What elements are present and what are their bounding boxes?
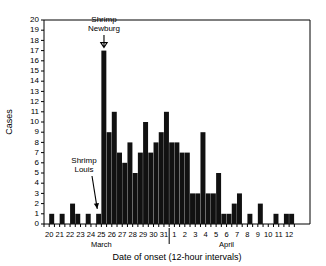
x-tick-label: 27 (118, 230, 126, 239)
bar (138, 153, 143, 224)
bar (190, 193, 195, 224)
y-axis-title: Cases (4, 109, 14, 135)
annotation-louis-line1: Shrimp (71, 156, 97, 165)
bar (143, 122, 148, 224)
bar (284, 214, 289, 224)
bar (154, 142, 159, 224)
x-tick-label: 6 (224, 230, 228, 239)
bar (237, 193, 242, 224)
bar (75, 214, 80, 224)
y-tick-label: 1 (35, 209, 40, 218)
x-tick-label: 21 (55, 230, 63, 239)
bar (86, 214, 91, 224)
x-tick-label: 3 (193, 230, 197, 239)
bar (117, 153, 122, 224)
epi-curve-chart: 01234567891011121314151617181920Cases202… (0, 0, 326, 266)
x-tick-label: 25 (97, 230, 105, 239)
x-tick-label: 7 (235, 230, 239, 239)
bar (258, 204, 263, 224)
x-tick-label: 10 (264, 230, 272, 239)
bar (96, 214, 101, 224)
bar (289, 214, 294, 224)
x-tick-label: 12 (285, 230, 293, 239)
x-tick-label: 26 (108, 230, 116, 239)
x-axis-title: Date of onset (12-hour intervals) (112, 252, 241, 262)
y-tick-label: 15 (30, 66, 39, 75)
y-tick-label: 19 (30, 25, 39, 34)
y-tick-label: 10 (30, 117, 39, 126)
x-tick-label: 22 (66, 230, 74, 239)
bar (247, 214, 252, 224)
y-tick-label: 16 (30, 56, 39, 65)
x-tick-label: 8 (245, 230, 249, 239)
y-tick-label: 14 (30, 76, 39, 85)
annotation-louis-line2: Louis (74, 165, 93, 174)
x-tick-label: 2 (183, 230, 187, 239)
y-tick-label: 6 (35, 158, 40, 167)
x-tick-label: 31 (160, 230, 168, 239)
bar (273, 214, 278, 224)
bar (211, 193, 216, 224)
y-tick-label: 11 (31, 107, 40, 116)
x-tick-label: 4 (204, 230, 208, 239)
bar (70, 204, 75, 224)
bar (148, 153, 153, 224)
x-tick-label: 1 (172, 230, 176, 239)
month-label-april: April (219, 240, 234, 249)
y-tick-label: 7 (35, 148, 40, 157)
bar (133, 173, 138, 224)
y-tick-label: 18 (30, 36, 39, 45)
bar (232, 204, 237, 224)
x-tick-label: 11 (275, 230, 283, 239)
x-tick-label: 20 (45, 230, 53, 239)
y-tick-label: 2 (35, 199, 40, 208)
bar (159, 132, 164, 224)
bar (216, 173, 221, 224)
x-tick-label: 9 (256, 230, 260, 239)
y-tick-label: 13 (30, 87, 39, 96)
y-tick-label: 20 (30, 15, 39, 24)
bar (221, 214, 226, 224)
bar (195, 193, 200, 224)
x-tick-label: 30 (149, 230, 157, 239)
bar (127, 142, 132, 224)
down-arrow-icon (101, 35, 107, 48)
bar (49, 214, 54, 224)
annotation-newburg-line1: Shrimp (91, 15, 117, 24)
bar (122, 163, 127, 224)
bar (227, 214, 232, 224)
bar (200, 132, 205, 224)
y-tick-label: 17 (30, 46, 39, 55)
bar (206, 193, 211, 224)
y-tick-label: 4 (35, 178, 40, 187)
bar (169, 142, 174, 224)
y-tick-label: 12 (30, 97, 39, 106)
bar (60, 214, 65, 224)
y-tick-label: 0 (35, 219, 40, 228)
month-label-march: March (91, 240, 112, 249)
bar (101, 51, 106, 224)
bar (180, 153, 185, 224)
diagonal-arrow-icon (94, 203, 99, 209)
bar (174, 142, 179, 224)
x-tick-label: 5 (214, 230, 218, 239)
annotation-newburg-line2: Newburg (88, 24, 120, 33)
x-tick-label: 23 (76, 230, 84, 239)
chart-canvas: 01234567891011121314151617181920Cases202… (0, 0, 326, 266)
bar (164, 112, 169, 224)
x-tick-label: 29 (139, 230, 147, 239)
bar (112, 112, 117, 224)
x-tick-label: 28 (128, 230, 136, 239)
x-tick-label: 24 (87, 230, 95, 239)
y-tick-label: 5 (35, 168, 40, 177)
y-tick-label: 9 (35, 127, 40, 136)
y-tick-label: 3 (35, 189, 40, 198)
y-tick-label: 8 (35, 138, 40, 147)
bar (185, 153, 190, 224)
bar (107, 132, 112, 224)
